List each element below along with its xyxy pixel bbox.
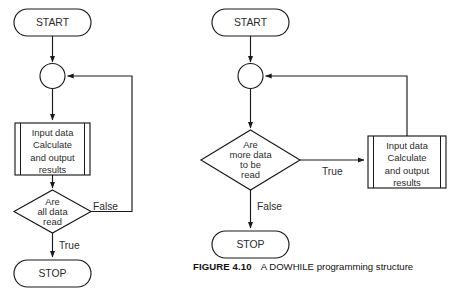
right-decision-diamond: Are more data to be read [201,130,300,190]
left-process-line-2: Calculate [33,139,72,150]
left-process-box: Input data Calculate and output results [15,123,90,175]
right-stop-terminator: STOP [212,231,289,258]
left-process-line-4: results [39,164,67,175]
right-junction-connector [238,64,263,89]
left-decision-line-3: read [43,216,62,227]
left-true-label: True [59,240,80,251]
right-false-label: False [257,201,282,212]
figure-caption: FIGURE 4.10A DOWHILE programming structu… [193,261,448,272]
right-process-line-3: and output [385,165,430,176]
right-process-line-1: Input data [386,140,428,151]
right-process-line-2: Calculate [387,152,426,163]
right-edge-loop-back [266,76,408,136]
left-process-line-3: and output [30,152,75,163]
right-process-box: Input data Calculate and output results [368,136,446,188]
right-decision-line-4: read [241,169,260,180]
left-junction-connector [40,64,65,89]
left-stop-terminator: STOP [14,260,91,287]
right-stop-label: STOP [236,239,264,250]
right-true-label: True [322,166,343,177]
left-start-label: START [36,17,70,28]
right-start-terminator: START [212,9,289,36]
figure-caption-title: A DOWHILE programming structure [261,261,413,272]
left-process-line-1: Input data [32,127,74,138]
left-decision-diamond: Are all data read [14,190,91,233]
right-process-line-4: results [393,177,421,188]
flowchart-canvas: START Input data Calculate and output re… [0,0,456,296]
left-flowchart: START Input data Calculate and output re… [14,9,132,287]
left-start-terminator: START [14,9,91,36]
left-stop-label: STOP [38,268,66,279]
figure-container: START Input data Calculate and output re… [0,0,456,296]
left-false-label: False [93,201,118,212]
right-flowchart: START Are more data to be read True [201,9,446,258]
figure-caption-label: FIGURE 4.10 [193,261,252,272]
right-start-label: START [234,17,268,28]
